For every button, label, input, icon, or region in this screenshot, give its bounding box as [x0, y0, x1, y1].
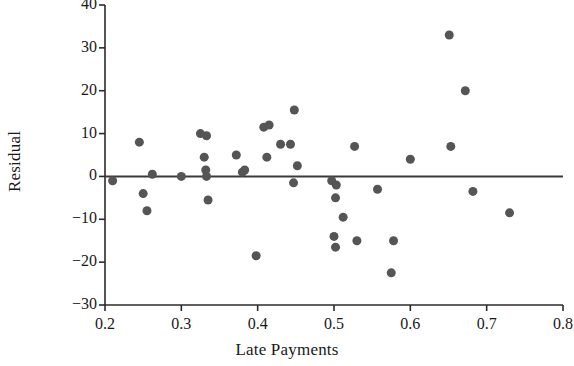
data-point	[339, 213, 348, 222]
data-point	[387, 268, 396, 277]
data-point	[331, 243, 340, 252]
data-point	[177, 172, 186, 181]
data-point	[332, 181, 341, 190]
x-tick-label: 0.4	[233, 315, 283, 333]
data-point	[445, 31, 454, 40]
data-point	[330, 232, 339, 241]
y-tick-label: −20	[51, 252, 97, 270]
data-point	[286, 140, 295, 149]
data-point	[276, 140, 285, 149]
scatter-plot-figure: Residual Late Payments −30−20−1001020304…	[0, 0, 574, 366]
x-tick-label: 0.5	[309, 315, 359, 333]
y-tick-label: 10	[51, 124, 97, 142]
y-tick-label: 30	[51, 38, 97, 56]
data-point	[389, 236, 398, 245]
data-point	[240, 166, 249, 175]
x-tick-label: 0.2	[80, 315, 130, 333]
data-point	[446, 142, 455, 151]
data-point	[200, 153, 209, 162]
x-tick-label: 0.7	[462, 315, 512, 333]
data-point	[252, 251, 261, 260]
data-point	[202, 172, 211, 181]
data-point	[262, 153, 271, 162]
data-point	[293, 161, 302, 170]
y-tick-label: −10	[51, 209, 97, 227]
data-point	[108, 176, 117, 185]
data-points	[108, 31, 514, 278]
x-tick-label: 0.6	[385, 315, 435, 333]
axes-lines	[105, 5, 563, 305]
y-tick-label: 20	[51, 81, 97, 99]
data-point	[202, 131, 211, 140]
data-point	[350, 142, 359, 151]
data-point	[461, 86, 470, 95]
y-tick-label: 0	[51, 166, 97, 184]
data-point	[290, 106, 299, 115]
data-point	[406, 155, 415, 164]
data-point	[505, 208, 514, 217]
data-point	[232, 151, 241, 160]
data-point	[265, 121, 274, 130]
data-point	[352, 236, 361, 245]
data-point	[135, 138, 144, 147]
x-tick-label: 0.8	[538, 315, 574, 333]
data-point	[204, 196, 213, 205]
data-point	[139, 189, 148, 198]
x-tick-label: 0.3	[156, 315, 206, 333]
data-point	[148, 170, 157, 179]
data-point	[331, 193, 340, 202]
y-tick-label: 40	[51, 0, 97, 13]
data-point	[142, 206, 151, 215]
y-tick-label: −30	[51, 295, 97, 313]
data-point	[468, 187, 477, 196]
data-point	[373, 185, 382, 194]
tick-marks	[99, 5, 563, 311]
data-point	[289, 178, 298, 187]
